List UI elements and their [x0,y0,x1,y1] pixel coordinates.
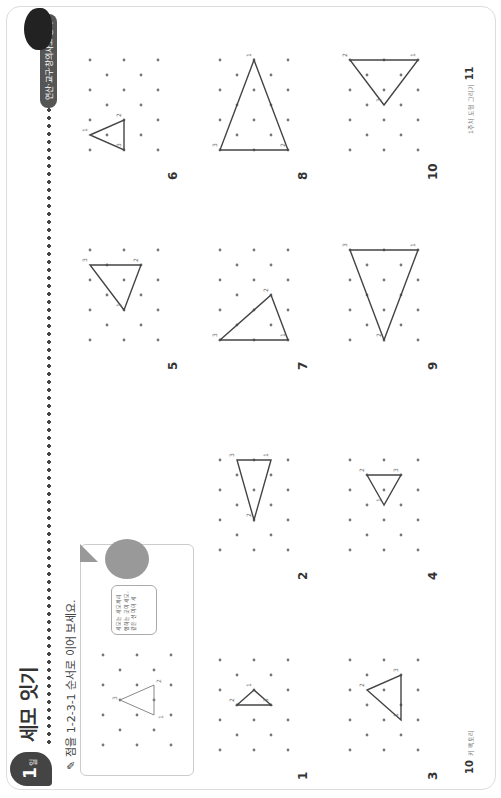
problem-card: 10123 [330,10,450,180]
example-dot-grid: 1 2 3 [93,635,183,755]
svg-text:3: 3 [111,696,118,700]
svg-text:1: 1 [115,303,122,307]
svg-text:3: 3 [375,98,382,102]
problem-card: 6123 [70,10,190,180]
problem-card: 7123 [200,200,320,370]
problem-card: 2123 [200,410,320,580]
svg-text:1: 1 [157,715,164,719]
svg-text:2: 2 [358,468,365,472]
page-fold-icon [80,544,98,562]
svg-text:3: 3 [392,668,399,672]
problem-number: 1 [296,772,310,780]
day-badge: 1일 [10,752,52,786]
pencil-icon: ✎ [65,761,78,770]
instruction: ✎점을 1-2-3-1 순서로 이어 보세요. [62,599,78,770]
dotted-divider [46,106,52,746]
svg-text:2: 2 [341,53,348,57]
svg-text:1: 1 [81,128,88,132]
speech-bubble: 세모는 세모끼리 합하는 곳이 세모, 같은 선 이어 세 [111,585,157,635]
problem-card: 5123 [70,200,190,370]
dot-grid[interactable]: 123 [210,440,300,560]
workbook-page: 1일 세모 잇기 연산·교구·창의사고 종이 ✎점을 1-2-3-1 순서로 이… [0,0,501,798]
svg-text:2: 2 [228,698,235,702]
example-box: 1 2 3 세모는 세모끼리 합하는 곳이 세모, 같은 선 이어 세 [80,544,194,776]
svg-text:3: 3 [81,258,88,262]
day-suffix: 일 [29,759,38,766]
svg-text:1: 1 [245,53,252,57]
dot-grid[interactable]: 123 [340,40,430,160]
dot-grid[interactable]: 123 [340,230,430,350]
svg-text:2: 2 [115,113,122,117]
svg-text:1: 1 [245,683,252,687]
svg-text:2: 2 [358,683,365,687]
svg-text:3: 3 [211,143,218,147]
svg-text:1: 1 [392,713,399,717]
problem-number: 5 [166,362,180,370]
problem-number: 3 [426,772,440,780]
page-number-left: 10 [464,760,475,774]
svg-text:2: 2 [155,679,162,683]
page-title: 세모 잇기 [14,667,41,742]
problem-number: 2 [296,572,310,580]
svg-text:1: 1 [279,333,286,337]
problem-number: 9 [426,362,440,370]
svg-text:3: 3 [228,453,235,457]
problem-number: 7 [296,362,310,370]
footer-right: 1주차 도형 그리기11 [464,66,475,138]
dot-grid[interactable]: 123 [210,230,300,350]
svg-text:3: 3 [115,143,122,147]
dot-grid[interactable]: 123 [340,640,430,760]
page-number-right: 11 [464,66,475,80]
dot-grid[interactable]: 123 [80,230,170,350]
svg-text:2: 2 [279,143,286,147]
svg-text:2: 2 [245,513,252,517]
problem-number: 10 [426,163,440,180]
mascot-icon [24,8,52,50]
day-number: 1 [20,767,40,779]
dot-grid[interactable]: 123 [210,640,300,760]
svg-text:2: 2 [132,258,139,262]
bunny-mascot-icon [105,539,149,579]
problem-card: 3123 [330,610,450,780]
problem-number: 6 [166,172,180,180]
problem-number: 4 [426,572,440,580]
svg-text:2: 2 [262,288,269,292]
dot-grid[interactable]: 123 [340,440,430,560]
footer-left: 10키 팩토리 [464,726,475,774]
problem-card: 8123 [200,10,320,180]
svg-text:3: 3 [262,698,269,702]
problem-number: 8 [296,172,310,180]
svg-text:1: 1 [409,243,416,247]
svg-text:2: 2 [375,333,382,337]
svg-text:1: 1 [375,498,382,502]
svg-text:1: 1 [262,453,269,457]
instruction-text: 점을 1-2-3-1 순서로 이어 보세요. [65,599,78,756]
svg-text:3: 3 [211,333,218,337]
dot-grid[interactable]: 123 [210,40,300,160]
svg-text:3: 3 [392,468,399,472]
footer-left-text: 키 팩토리 [467,730,474,756]
problem-card: 4123 [330,410,450,580]
svg-text:1: 1 [409,53,416,57]
problem-card: 9123 [330,200,450,370]
svg-text:3: 3 [341,243,348,247]
dot-grid[interactable]: 123 [80,40,170,160]
problem-card: 1123 [200,610,320,780]
footer-right-text: 1주차 도형 그리기 [467,84,474,134]
